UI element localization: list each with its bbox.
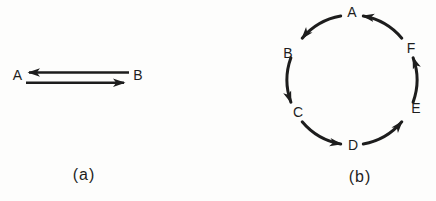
cycle-edge-b-c bbox=[287, 58, 291, 102]
cycle-node-e: E bbox=[411, 100, 420, 116]
cycle-node-f: F bbox=[407, 40, 416, 56]
panel-a-reversible: A B (a) bbox=[13, 67, 143, 183]
cycle-edge-f-a bbox=[363, 16, 402, 38]
cycle-node-a: A bbox=[347, 4, 357, 20]
panel-b-caption: (b) bbox=[349, 168, 372, 185]
cycle-edge-c-d bbox=[302, 122, 341, 144]
panel-a-caption: (a) bbox=[73, 166, 96, 183]
figure-canvas: A B (a) (b) ABCDEF bbox=[0, 0, 436, 201]
cycle-edge-e-f bbox=[413, 58, 417, 102]
cycle-edge-d-e bbox=[363, 122, 402, 144]
panel-a-node-a: A bbox=[13, 67, 23, 83]
cycle-edge-a-b bbox=[302, 16, 341, 38]
panel-b-cycle: (b) ABCDEF bbox=[283, 4, 420, 185]
cycle-node-c: C bbox=[293, 104, 303, 120]
cycle-node-d: D bbox=[348, 137, 358, 153]
panel-a-node-b: B bbox=[133, 67, 142, 83]
cycle-node-b: B bbox=[283, 45, 292, 61]
